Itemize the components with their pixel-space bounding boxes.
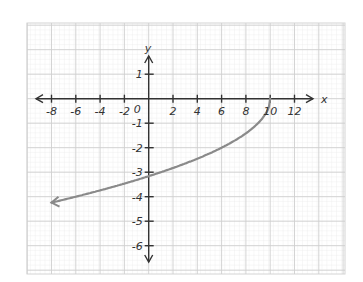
x-axis-label: x <box>320 93 328 106</box>
grid-paper <box>27 23 345 274</box>
y-tick-label: -3 <box>132 166 143 179</box>
y-tick-label: -6 <box>132 240 143 253</box>
y-tick-label: -4 <box>132 191 143 204</box>
x-tick-label: 12 <box>288 105 302 118</box>
y-tick-label: -5 <box>132 215 143 228</box>
y-tick-label: -1 <box>132 117 143 130</box>
graph: -8-6-4-2246810121-1-2-3-4-5-60xy <box>0 0 363 282</box>
x-tick-label: 4 <box>194 105 201 118</box>
x-tick-label: -4 <box>95 105 106 118</box>
x-tick-label: -6 <box>70 105 81 118</box>
x-tick-label: 2 <box>170 105 177 118</box>
origin-label: 0 <box>134 103 141 116</box>
x-tick-label: 10 <box>263 105 277 118</box>
x-tick-label: 6 <box>218 105 225 118</box>
x-tick-label: 8 <box>242 105 249 118</box>
y-axis-label: y <box>144 42 152 55</box>
y-tick-label: -2 <box>132 142 143 155</box>
y-tick-label: 1 <box>136 68 143 81</box>
x-tick-label: -2 <box>119 105 130 118</box>
x-tick-label: -8 <box>46 105 57 118</box>
